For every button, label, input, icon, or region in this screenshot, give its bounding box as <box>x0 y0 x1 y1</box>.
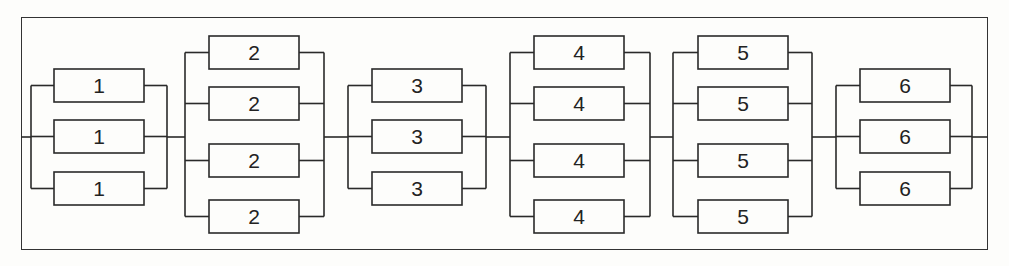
component-block-5-1: 5 <box>698 36 788 69</box>
component-block-1-1: 1 <box>54 69 144 102</box>
component-block-4-3: 4 <box>534 144 624 177</box>
diagram-wiring <box>0 0 1009 266</box>
component-block-2-4: 2 <box>209 200 299 233</box>
component-block-4-4: 4 <box>534 200 624 233</box>
component-block-3-3: 3 <box>372 172 462 205</box>
component-block-2-2: 2 <box>209 87 299 120</box>
component-block-2-3: 2 <box>209 144 299 177</box>
component-block-4-2: 4 <box>534 87 624 120</box>
component-block-5-3: 5 <box>698 144 788 177</box>
component-block-5-2: 5 <box>698 87 788 120</box>
component-block-2-1: 2 <box>209 36 299 69</box>
component-block-3-1: 3 <box>372 69 462 102</box>
component-block-4-1: 4 <box>534 36 624 69</box>
component-block-1-2: 1 <box>54 120 144 153</box>
component-block-3-2: 3 <box>372 120 462 153</box>
component-block-6-3: 6 <box>860 172 950 205</box>
component-block-6-2: 6 <box>860 120 950 153</box>
component-block-1-3: 1 <box>54 172 144 205</box>
figure-caption: Figure 5.x <box>0 257 1009 266</box>
component-block-6-1: 6 <box>860 69 950 102</box>
component-block-5-4: 5 <box>698 200 788 233</box>
